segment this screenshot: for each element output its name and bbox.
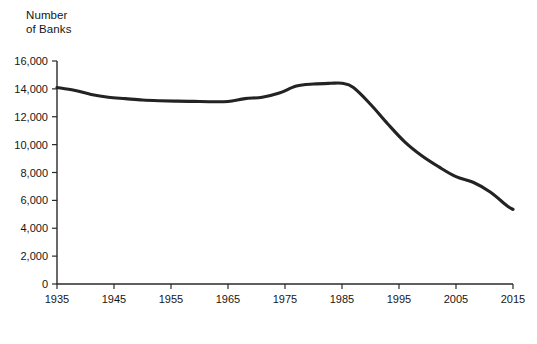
y-tick-label: 14,000 <box>14 83 48 95</box>
y-tick-label: 2,000 <box>20 250 48 262</box>
y-tick-label: 10,000 <box>14 139 48 151</box>
chart-plot-area: 02,0004,0006,0008,00010,00012,00014,0001… <box>0 0 537 344</box>
x-axis-tick-group: 193519451955196519751985199520052015 <box>45 284 525 305</box>
x-tick-label: 1995 <box>387 293 411 305</box>
x-tick-label: 1965 <box>216 293 240 305</box>
y-tick-label: 16,000 <box>14 55 48 67</box>
x-tick-label: 1955 <box>159 293 183 305</box>
x-tick-label: 1935 <box>45 293 69 305</box>
y-axis-tick-group: 02,0004,0006,0008,00010,00012,00014,0001… <box>14 55 57 290</box>
y-tick-label: 12,000 <box>14 111 48 123</box>
axis-lines <box>57 61 513 284</box>
y-tick-label: 6,000 <box>20 194 48 206</box>
y-tick-label: 4,000 <box>20 222 48 234</box>
series-line-number-of-banks <box>57 83 513 209</box>
y-tick-label: 0 <box>42 278 48 290</box>
bank-count-chart: Number of Banks 02,0004,0006,0008,00010,… <box>0 0 537 344</box>
x-tick-label: 1945 <box>102 293 126 305</box>
x-tick-label: 2005 <box>444 293 468 305</box>
x-tick-label: 2015 <box>501 293 525 305</box>
x-tick-label: 1985 <box>330 293 354 305</box>
y-tick-label: 8,000 <box>20 167 48 179</box>
x-tick-label: 1975 <box>273 293 297 305</box>
